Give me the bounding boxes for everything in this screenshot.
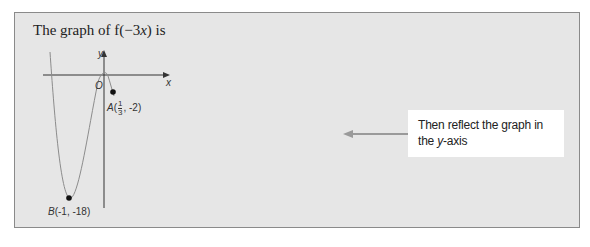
point-b-label: B(-1, -18) [48,206,90,217]
instruction-note: Then reflect the graph in the y-axis [408,110,564,157]
point-b-marker [66,195,72,201]
point-a-marker [110,89,116,95]
point-a-label: A(13, -2) [107,100,141,117]
y-axis-label: y [98,48,103,59]
origin-label: O [95,80,103,91]
left-arrow-icon [343,130,353,138]
x-axis-label: x [166,77,171,88]
